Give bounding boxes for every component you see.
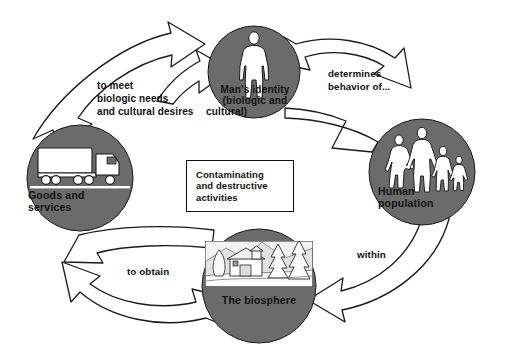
label-line: within — [357, 249, 417, 262]
center-box-contaminating-activities[interactable]: Contaminating and destructive activities — [186, 160, 294, 212]
label-line: to obtain — [127, 266, 197, 279]
label-line: and destructive — [196, 180, 268, 192]
label-line: to meet — [97, 79, 232, 92]
node-human-population[interactable] — [369, 119, 475, 225]
node-the-biosphere[interactable] — [202, 229, 316, 343]
node-goods-and-services[interactable] — [27, 125, 133, 231]
diagram-canvas: Goods and services Man's identity (biolo… — [0, 0, 505, 355]
label-line: behavior of... — [328, 81, 428, 94]
label-line: determines — [328, 68, 428, 81]
edge-label-identity-to-population: determines behavior of... — [328, 68, 428, 93]
house-and-pine-trees-landscape-icon — [205, 240, 313, 287]
label-line: Contaminating — [196, 169, 268, 181]
center-box-text: Contaminating and destructive activities — [187, 169, 268, 204]
edge-label-biosphere-to-goods: to obtain — [127, 266, 197, 279]
edge-label-goods-to-identity: to meet biologic needs and cultural desi… — [97, 79, 232, 118]
label-line: activities — [196, 192, 268, 204]
edge-label-population-to-biosphere: within — [357, 249, 417, 262]
label-line: biologic needs — [97, 92, 232, 105]
label-line: and cultural desires — [97, 105, 232, 118]
